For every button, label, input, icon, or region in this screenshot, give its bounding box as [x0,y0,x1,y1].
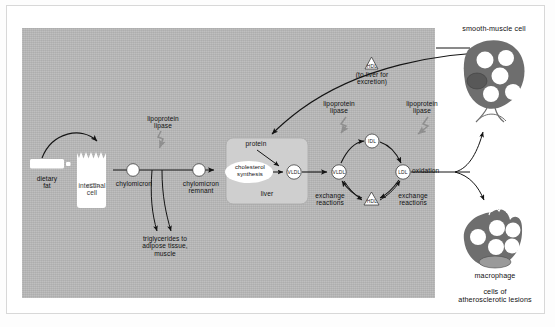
chylomicron-particle [127,164,140,177]
dietary-fat-icon [30,159,71,169]
label-cholesterol-synthesis: cholesterol synthesis [226,164,274,177]
arrow-oxidation-to-smooth-muscle [455,132,483,172]
label-triglycerides: triglycerides to adipose tissue, muscle [126,235,204,257]
label-vldl: VLDL [327,170,351,175]
label-hdl-note: (to liver for excretion) [340,71,404,86]
label-vldl-liver: VLDL [282,170,306,175]
lipase-arrow-left [158,131,163,148]
label-atherosclerotic-caption: cells of atherosclerotic lesions [436,288,554,304]
label-exchange-left: exchange reactions [303,192,357,207]
lipase-arrow-mid [341,117,346,133]
label-macrophage: macrophage [452,272,538,280]
macrophage-cell-icon [464,208,522,268]
intestinal-cell-icon [77,152,106,208]
arrow-oxidation-to-macrophage [455,172,484,200]
arrow-triglycerides-b [162,170,171,231]
label-protein: protein [228,140,284,147]
label-lipoprotein-lipase-1: lipoprotein lipase [129,115,197,130]
label-smooth-muscle-cell: smooth-muscle cell [437,25,551,33]
lipase-arrow-right [418,117,428,134]
arrow-vldl-to-idl [341,141,364,163]
label-hdl: HDL [361,199,383,204]
smooth-muscle-cell-icon [464,40,525,122]
label-lipoprotein-lipase-3: lipoprotein lipase [388,100,456,115]
figure-page: dietary fat intestinal cell chylomicron … [0,0,555,327]
arrow-fat-to-intestine [42,133,97,158]
label-hdl-top: HDL [361,64,383,69]
label-chylomicron-remnant: chylomicron remnant [172,180,230,195]
label-oxidation: oxidation [412,167,462,174]
label-chylomicron: chylomicron [105,180,163,187]
arrow-idl-to-ldl [380,142,401,163]
label-liver: liver [240,190,294,197]
label-ldl: LDL [392,170,414,175]
label-lipoprotein-lipase-2: lipoprotein lipase [305,100,373,115]
label-exchange-right: exchange reactions [386,192,440,207]
chylomicron-remnant-particle [193,164,206,177]
label-idl: IDL [361,139,383,144]
